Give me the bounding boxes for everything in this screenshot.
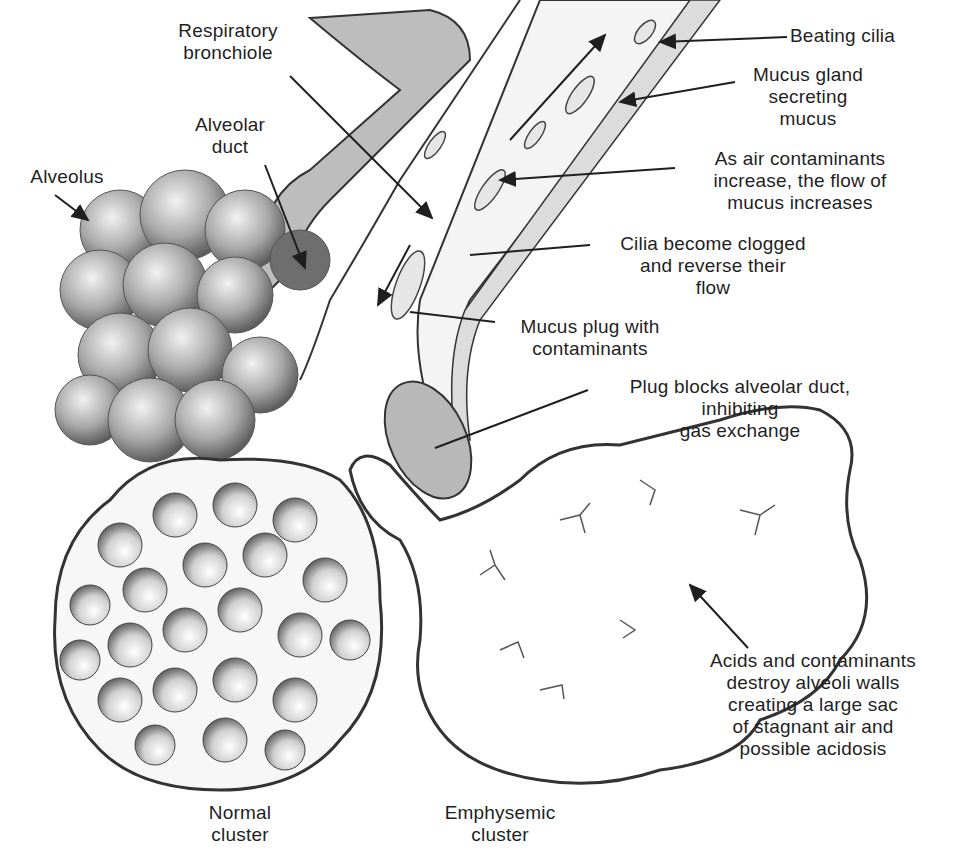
label-mucus-plug: Mucus plug with contaminants [500, 316, 680, 360]
label-acids-destroy: Acids and contaminants destroy alveoli w… [678, 650, 948, 760]
label-respiratory-bronchiole: Respiratory bronchiole [158, 20, 298, 64]
label-cilia-clogged: Cilia become clogged and reverse their f… [593, 233, 833, 299]
label-alveolus: Alveolus [12, 166, 122, 188]
label-beating-cilia: Beating cilia [790, 25, 940, 47]
label-contaminants-increase: As air contaminants increase, the flow o… [680, 148, 920, 214]
respiratory-bronchiole-tube [259, 0, 720, 440]
label-normal-cluster: Normal cluster [190, 802, 290, 846]
label-alveolar-duct: Alveolar duct [180, 114, 280, 158]
label-emphysemic-cluster: Emphysemic cluster [425, 802, 575, 846]
label-mucus-gland: Mucus gland secreting mucus [738, 64, 878, 130]
label-plug-blocks: Plug blocks alveolar duct, inhibiting ga… [590, 376, 890, 442]
normal-cluster [55, 458, 382, 790]
